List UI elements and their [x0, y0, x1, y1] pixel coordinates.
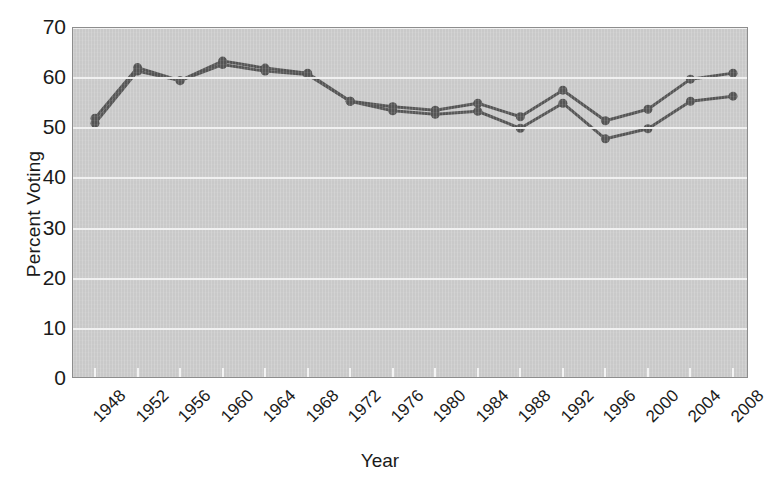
- x-axis-title: Year: [0, 450, 760, 472]
